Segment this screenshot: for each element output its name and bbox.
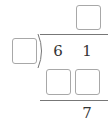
dividend-digit-ones: 1 — [81, 44, 93, 59]
remainder-digit: 7 — [81, 106, 93, 121]
dividend-digit-tens: 6 — [52, 44, 64, 59]
division-bracket — [36, 33, 46, 69]
divisor-box[interactable] — [12, 38, 37, 64]
product-box-tens[interactable] — [46, 69, 71, 95]
product-box-ones[interactable] — [75, 69, 100, 95]
subtraction-line — [40, 100, 108, 101]
division-bar — [40, 34, 108, 35]
quotient-box[interactable] — [76, 5, 101, 30]
